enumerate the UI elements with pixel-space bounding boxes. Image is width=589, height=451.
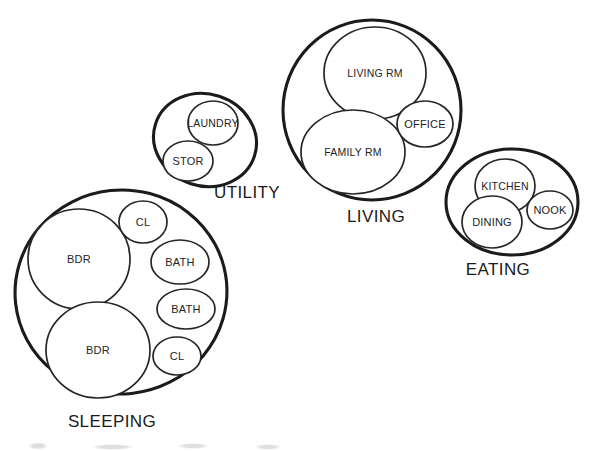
room-label-nook: NOOK [533,204,567,216]
room-bdr-upper[interactable]: BDR [28,209,130,309]
room-label-office: OFFICE [404,118,446,130]
room-label-family-rm: FAMILY RM [324,146,381,158]
zone-utility[interactable]: LAUNDRYSTORUTILITY [141,80,280,202]
room-bath-lower[interactable]: BATH [157,289,215,329]
zones-layer: BDRBDRCLBATHBATHCLSLEEPINGLAUNDRYSTORUTI… [5,20,578,431]
room-nook[interactable]: NOOK [527,191,573,229]
bubble-diagram-canvas: BDRBDRCLBATHBATHCLSLEEPINGLAUNDRYSTORUTI… [0,0,589,451]
room-label-living-rm: LIVING RM [347,67,402,79]
room-cl-lower[interactable]: CL [153,337,201,375]
room-label-laundry: LAUNDRY [187,117,238,129]
room-label-dining: DINING [472,216,512,228]
room-dining[interactable]: DINING [462,196,522,248]
room-label-cl-upper: CL [136,216,150,228]
room-label-kitchen: KITCHEN [481,180,529,192]
room-cl-upper[interactable]: CL [119,201,167,243]
room-office[interactable]: OFFICE [397,101,453,147]
room-bath-upper[interactable]: BATH [151,240,209,284]
room-bdr-lower[interactable]: BDR [46,302,150,398]
room-label-bdr-lower: BDR [86,344,110,356]
bubble-diagram-root: BDRBDRCLBATHBATHCLSLEEPINGLAUNDRYSTORUTI… [0,0,589,451]
zone-living[interactable]: LIVING RMFAMILY RMOFFICELIVING [283,20,461,226]
zone-label-eating: EATING [466,260,530,279]
room-stor[interactable]: STOR [163,141,213,181]
room-label-bdr-upper: BDR [67,253,91,265]
room-family-rm[interactable]: FAMILY RM [301,110,405,194]
room-label-cl-lower: CL [170,350,184,362]
zone-sleeping[interactable]: BDRBDRCLBATHBATHCLSLEEPING [5,179,237,431]
zone-label-living: LIVING [347,207,405,226]
room-laundry[interactable]: LAUNDRY [187,101,238,145]
room-label-stor: STOR [172,155,203,167]
zone-eating[interactable]: KITCHENDININGNOOKEATING [446,149,578,279]
zone-label-utility: UTILITY [214,183,280,202]
room-label-bath-upper: BATH [165,256,194,268]
room-label-bath-lower: BATH [171,303,200,315]
zone-label-sleeping: SLEEPING [68,412,156,431]
